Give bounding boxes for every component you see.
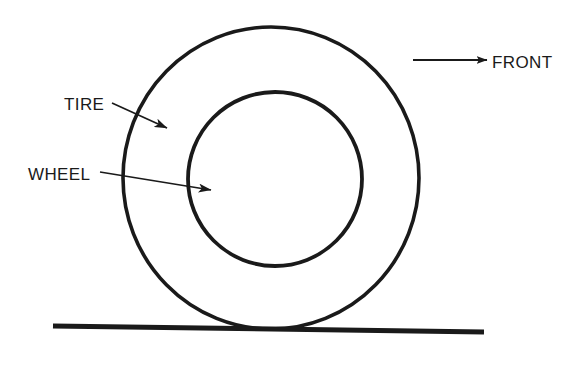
wheel-leader-line bbox=[100, 172, 211, 190]
tire-label: TIRE bbox=[64, 95, 104, 114]
wheel-label: WHEEL bbox=[28, 165, 90, 184]
ground-line bbox=[53, 326, 484, 332]
wheel-inner-circle bbox=[188, 92, 362, 266]
tire-wheel-diagram: TIRE WHEEL FRONT bbox=[0, 0, 581, 365]
diagram-canvas: TIRE WHEEL FRONT bbox=[0, 0, 581, 365]
tire-outer-circle bbox=[123, 27, 419, 329]
front-label: FRONT bbox=[492, 53, 553, 72]
